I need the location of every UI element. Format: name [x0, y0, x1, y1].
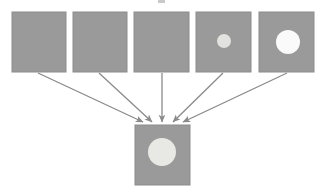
result-frame[interactable] [135, 125, 190, 185]
frame-5[interactable] [259, 12, 314, 72]
frame-1-rect[interactable] [12, 12, 66, 72]
diagram-canvas [0, 0, 322, 192]
result-frame-circle-icon [148, 138, 176, 166]
source-frames-row [12, 12, 314, 72]
arrow-frame-1-to-result [38, 73, 143, 122]
frame-3[interactable] [134, 12, 189, 72]
frame-2[interactable] [73, 12, 127, 72]
frame-1[interactable] [12, 12, 66, 72]
frame-2-rect[interactable] [73, 12, 127, 72]
frame-4-circle-icon [217, 34, 231, 48]
cropped-glyph-top-artifact [158, 0, 165, 3]
frame-5-circle-icon [276, 30, 300, 54]
arrow-frame-2-to-result [99, 73, 152, 122]
frame-3-rect[interactable] [134, 12, 189, 72]
arrow-group [38, 73, 287, 122]
diagram-svg [0, 0, 322, 192]
frame-4[interactable] [196, 12, 251, 72]
